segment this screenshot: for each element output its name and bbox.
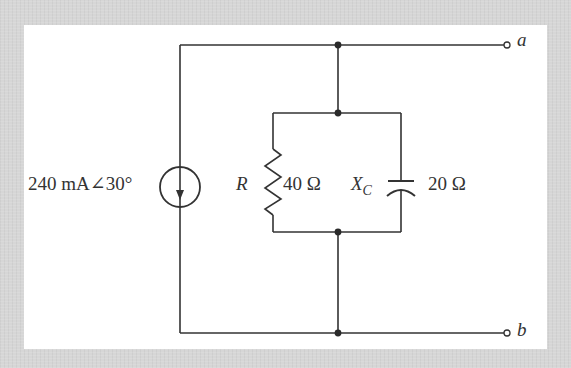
terminal-b-icon [504, 330, 510, 336]
capacitor-value-label: 20 Ω [428, 174, 466, 193]
resistor-symbol-label: R [236, 174, 248, 193]
source-label: 240 mA∠30° [28, 174, 132, 193]
current-source-icon [160, 167, 200, 207]
capacitor-symbol-label: XC [351, 174, 372, 193]
terminal-b-label: b [517, 320, 527, 339]
junction-node-inner-top [335, 110, 342, 117]
junction-node-inner-bottom [335, 229, 342, 236]
diagram-root: { "diagram": { "type": "circuit-schemati… [0, 0, 571, 368]
capacitor-symbol: X [351, 173, 363, 194]
resistor-icon [265, 149, 281, 215]
resistor-value-label: 40 Ω [283, 174, 321, 193]
terminal-a-icon [504, 42, 510, 48]
capacitor-subscript: C [363, 183, 372, 198]
junction-node-bottom [335, 330, 342, 337]
junction-node-top [335, 42, 342, 49]
terminal-a-label: a [517, 30, 527, 49]
